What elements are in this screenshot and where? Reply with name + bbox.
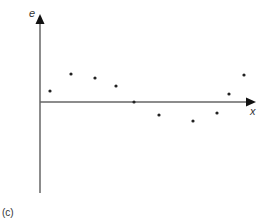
data-points — [48, 72, 245, 122]
data-point — [215, 111, 218, 114]
data-point — [157, 113, 160, 116]
data-point — [242, 73, 245, 76]
data-point — [114, 84, 117, 87]
y-axis-label: e — [29, 7, 35, 19]
data-point — [69, 72, 72, 75]
data-point — [191, 119, 194, 122]
x-axis-label: x — [249, 105, 256, 117]
data-point — [227, 92, 230, 95]
data-point — [132, 100, 135, 103]
panel-label: (c) — [2, 207, 14, 218]
y-axis-arrow-icon — [36, 14, 45, 24]
data-point — [93, 76, 96, 79]
data-point — [48, 89, 51, 92]
residual-plot: e x (c) — [0, 0, 266, 223]
